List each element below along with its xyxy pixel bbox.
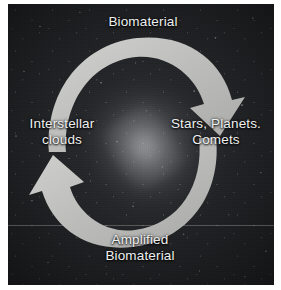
- label-stars-planets-comets: Stars, Planets. Comets: [158, 116, 274, 147]
- label-amplified-biomaterial: Amplified Biomaterial: [60, 232, 220, 263]
- label-biomaterial: Biomaterial: [68, 14, 218, 30]
- starfield-photograph: Biomaterial Stars, Planets. Comets Inter…: [8, 4, 274, 285]
- label-interstellar-clouds: Interstellar clouds: [10, 116, 114, 147]
- figure-panel: Biomaterial Stars, Planets. Comets Inter…: [0, 0, 281, 290]
